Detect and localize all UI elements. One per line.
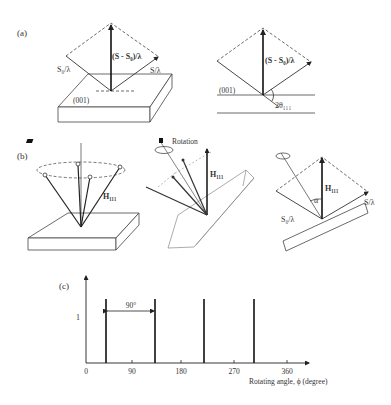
dashed-construction-lines: [158, 173, 175, 187]
slab-edge: [243, 170, 246, 186]
panel-a-left-diagram: S₀/λ S/λ (S - S₀)/λ (001): [57, 23, 172, 122]
rotation-label: Rotation: [172, 137, 198, 146]
h-vector-label: H₁₁₁: [103, 192, 117, 201]
difference-label: (S - S₀)/λ: [265, 56, 295, 65]
scattered-label: S/λ: [150, 66, 161, 75]
slab-front-face: [28, 238, 116, 250]
vector-tip-dot: [182, 159, 185, 162]
figure-canvas: (a) S₀/λ S/λ (S - S₀)/λ (001): [0, 0, 391, 405]
vector-tip-dot: [88, 175, 92, 179]
x-tick-label: 360: [281, 367, 293, 376]
h-vector-label: H₁₁₁: [210, 170, 224, 179]
rotation-axis-marker: [26, 139, 33, 143]
angle-label: 2θ₁₁₁: [275, 101, 291, 110]
x-tick-label: 90: [128, 367, 136, 376]
span-annotation-label: 90°: [126, 301, 137, 310]
y-tick-label: 1: [76, 313, 80, 322]
vector-tip-dot: [118, 165, 122, 169]
tilted-slab: [168, 170, 254, 248]
panel-b: (b) H₁₁₁: [17, 137, 375, 251]
panel-a-label: (a): [17, 28, 27, 38]
panel-b-middle-diagram: Rotation H₁₁₁: [146, 137, 254, 248]
panel-b-right-diagram: H₁₁₁ α S₀/λ S/λ: [276, 153, 375, 251]
surface-label: (001): [73, 96, 90, 105]
vector-tip-dot: [43, 173, 47, 177]
scattered-label: S/λ: [364, 198, 375, 207]
panel-a-right-diagram: (S - S₀)/λ (001) 2θ₁₁₁: [217, 28, 315, 113]
x-tick-label: 180: [175, 367, 187, 376]
h-vector-label: H₁₁₁: [325, 184, 339, 193]
h-vector: [183, 160, 207, 215]
panel-b-left-diagram: H₁₁₁: [26, 139, 139, 250]
incident-label: S₀/λ: [57, 65, 70, 74]
scattered-vector: [263, 62, 311, 95]
alpha-label: α: [314, 196, 319, 205]
panel-b-label: (b): [17, 151, 28, 161]
dashed-construction-lines: [175, 152, 211, 173]
difference-label: (S - S₀)/λ: [112, 52, 142, 61]
h-vector: [173, 177, 207, 215]
vector-tip-dot: [172, 176, 175, 179]
rotation-axis-marker: [159, 138, 163, 143]
panel-c-chart: (c) 1 0 90 180 270 360 90° Rotating angl…: [59, 276, 328, 386]
dashed-construction-lines: [217, 28, 311, 62]
x-tick-label: 270: [228, 367, 240, 376]
slab-front-face: [58, 107, 150, 122]
x-tick-label: 0: [84, 367, 88, 376]
incident-label: S₀/λ: [281, 215, 294, 224]
surface-label: (001): [219, 86, 236, 95]
tilted-slab: [283, 203, 368, 251]
vector-tip-dot: [76, 162, 80, 166]
rotation-axis: [281, 153, 322, 219]
panel-a: (a) S₀/λ S/λ (S - S₀)/λ (001): [17, 23, 315, 122]
x-ticks: 0 90 180 270 360: [84, 360, 293, 376]
panel-c-label: (c): [59, 281, 69, 291]
x-axis-label: Rotating angle, ϕ (degree): [249, 377, 328, 386]
